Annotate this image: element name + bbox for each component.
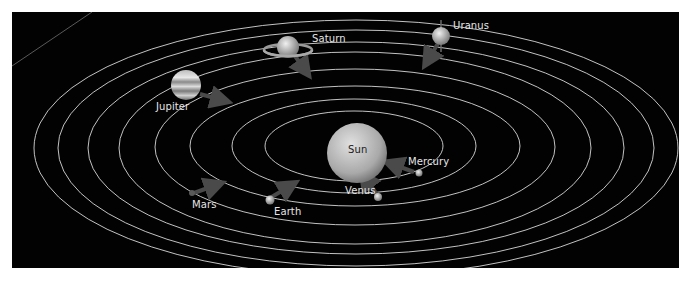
saturn-icon [264,36,312,58]
orbit-diagram-canvas [12,12,679,268]
earth-label: Earth [274,206,301,217]
uranus-label: Uranus [453,20,489,31]
saturn-label: Saturn [312,33,346,44]
sun-label: Sun [348,144,367,155]
venus-label: Venus [345,185,376,196]
motion-arrows [194,40,440,198]
streak-line [12,12,92,66]
mercury-icon [416,170,423,177]
mercury-label: Mercury [408,156,449,167]
earth-icon [266,196,275,205]
solar-system-diagram: Sun Mercury Venus Earth Mars Jupiter Sat… [12,12,679,268]
jupiter-icon [171,70,201,100]
jupiter-label: Jupiter [156,101,189,112]
mars-icon [189,190,195,196]
mars-label: Mars [192,199,216,210]
